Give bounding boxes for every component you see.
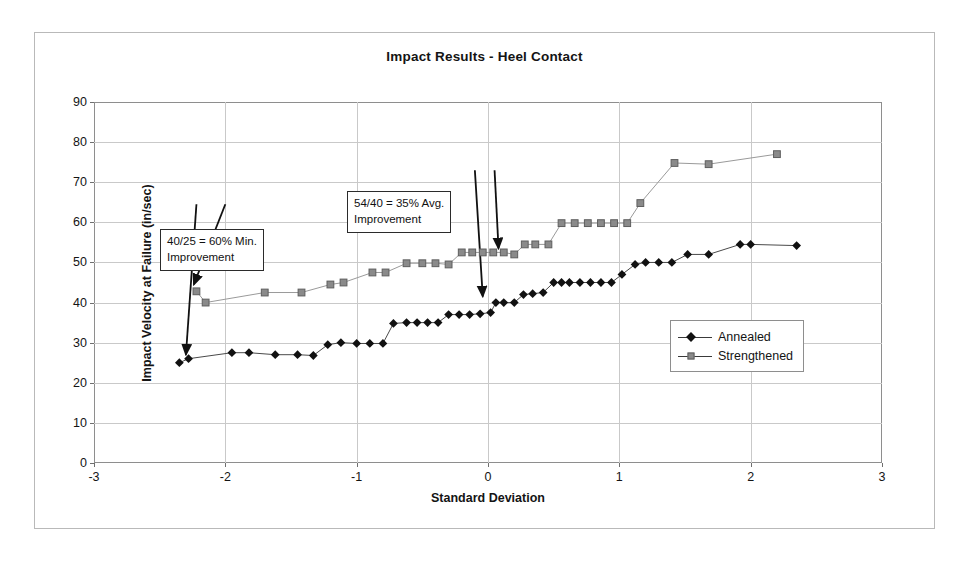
data-point: [521, 241, 528, 248]
data-point: [618, 270, 627, 279]
x-axis-tick-label: -1: [351, 470, 362, 484]
data-point: [327, 281, 334, 288]
data-series-layer: [94, 102, 882, 463]
annotation-min-improvement: 40/25 = 60% Min. Improvement: [160, 229, 264, 271]
data-point: [413, 318, 422, 327]
x-axis-tickmark: [882, 463, 883, 467]
legend-label-annealed: Annealed: [718, 330, 771, 344]
data-point: [736, 240, 745, 249]
annotation-avg-line1: 54/40 = 35% Avg.: [354, 196, 444, 212]
data-point: [631, 260, 640, 269]
data-point: [228, 348, 237, 357]
y-axis-tick-label: 70: [73, 175, 87, 189]
data-point: [792, 241, 801, 250]
data-point: [637, 200, 644, 207]
data-point: [558, 220, 565, 227]
data-point: [491, 298, 500, 307]
data-point: [624, 220, 631, 227]
chart-outer-frame: Impact Results - Heel Contact 0102030405…: [34, 32, 935, 529]
data-point: [382, 269, 389, 276]
data-point: [486, 308, 495, 317]
chart-legend: Annealed Strengthened: [670, 320, 804, 372]
data-point: [667, 258, 676, 267]
y-axis-tick-label: 30: [73, 336, 87, 350]
data-point: [184, 354, 193, 363]
data-point: [490, 249, 497, 256]
data-point: [532, 241, 539, 248]
data-point: [576, 278, 585, 287]
data-point: [557, 278, 566, 287]
data-point: [337, 338, 346, 347]
y-axis-tick-label: 10: [73, 416, 87, 430]
plot-area: 0102030405060708090 -3-2-10123 Impact Ve…: [94, 102, 882, 463]
data-point: [193, 288, 200, 295]
annotation-arrow: [495, 170, 499, 248]
data-point: [419, 260, 426, 267]
data-point: [309, 351, 318, 360]
data-point: [465, 310, 474, 319]
data-point: [598, 220, 605, 227]
data-point: [445, 261, 452, 268]
x-axis-tickmark: [357, 463, 358, 467]
series-line: [196, 154, 776, 302]
data-point: [500, 249, 507, 256]
data-point: [571, 220, 578, 227]
data-point: [434, 318, 443, 327]
data-point: [545, 241, 552, 248]
data-point: [584, 220, 591, 227]
data-point: [271, 350, 280, 359]
series-strengthened: [193, 151, 780, 306]
annotation-min-line2: Improvement: [167, 250, 257, 266]
x-axis-tick-label: -3: [88, 470, 99, 484]
x-axis-tickmark: [751, 463, 752, 467]
data-point: [323, 340, 332, 349]
y-axis-tick-label: 60: [73, 215, 87, 229]
data-point: [175, 358, 184, 367]
chart-screenshot: Impact Results - Heel Contact 0102030405…: [0, 0, 968, 561]
data-point: [641, 258, 650, 267]
data-point: [432, 260, 439, 267]
data-point: [683, 250, 692, 259]
x-axis-tickmark: [94, 463, 95, 467]
data-point: [511, 251, 518, 258]
data-point: [705, 161, 712, 168]
data-point: [379, 339, 388, 348]
x-axis-tick-label: -2: [220, 470, 231, 484]
data-point: [611, 220, 618, 227]
x-axis-tick-label: 0: [485, 470, 492, 484]
data-point: [597, 278, 606, 287]
data-point: [340, 279, 347, 286]
y-axis-tick-label: 0: [80, 456, 87, 470]
y-axis-tick-label: 40: [73, 296, 87, 310]
data-point: [671, 160, 678, 167]
y-axis-tick-label: 50: [73, 255, 87, 269]
legend-label-strengthened: Strengthened: [718, 349, 793, 363]
data-point: [479, 249, 486, 256]
data-point: [352, 339, 361, 348]
data-point: [586, 278, 595, 287]
legend-item-strengthened: Strengthened: [678, 346, 793, 365]
data-point: [369, 269, 376, 276]
x-axis-tickmark: [488, 463, 489, 467]
annotation-avg-improvement: 54/40 = 35% Avg. Improvement: [347, 191, 451, 233]
data-point: [293, 350, 302, 359]
data-point: [458, 249, 465, 256]
square-marker-icon: [678, 351, 712, 361]
annotation-arrow: [475, 170, 483, 296]
data-point: [704, 250, 713, 259]
annotation-avg-line2: Improvement: [354, 212, 444, 228]
data-point: [607, 278, 616, 287]
data-point: [403, 260, 410, 267]
data-point: [565, 278, 574, 287]
y-axis-tick-label: 90: [73, 95, 87, 109]
data-point: [654, 258, 663, 267]
data-point: [402, 318, 411, 327]
y-axis-tick-label: 20: [73, 376, 87, 390]
data-point: [528, 289, 537, 298]
data-point: [774, 151, 781, 158]
annotation-min-line1: 40/25 = 60% Min.: [167, 234, 257, 250]
x-axis-tickmark: [225, 463, 226, 467]
y-axis-title: Impact Velocity at Failure (in/sec): [140, 184, 154, 381]
diamond-marker-icon: [678, 332, 712, 342]
chart-title: Impact Results - Heel Contact: [35, 49, 934, 64]
